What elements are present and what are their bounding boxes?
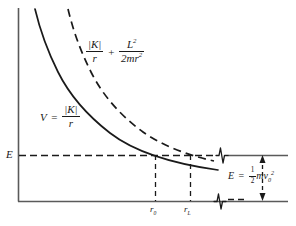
tick-label-r0: r0 [150, 205, 156, 214]
kinetic-energy-label: E = 1 2 mv02 [228, 168, 274, 186]
tick-label-r0-sub: 0 [154, 210, 157, 216]
effective-potential-label: |K| r + L2 2mr2 [86, 40, 144, 66]
kinetic-sub: 0 [268, 176, 271, 183]
tick-label-rL-sub: L [188, 210, 191, 216]
effective-term1-fraction: |K| r [86, 39, 103, 65]
axis-break-mark-top-icon [216, 148, 228, 163]
tick-label-rL: rL [184, 205, 191, 214]
effective-term2-den-exp: 2 [139, 52, 142, 59]
effective-operator: + [106, 46, 116, 58]
effective-term2-den-base: 2mr [121, 52, 139, 64]
potential-fraction: |K| r [62, 104, 79, 130]
kinetic-body: mv [256, 170, 268, 181]
kinetic-exp: 2 [271, 169, 274, 176]
kinetic-energy-arrow-head-down-icon [260, 193, 266, 201]
axis-break-mark-bottom-icon [214, 194, 226, 209]
kinetic-equals: = [237, 170, 247, 181]
energy-level-label: E [6, 149, 13, 160]
kinetic-lhs: E [228, 170, 234, 181]
kinetic-half-num: 1 [249, 167, 257, 177]
kinetic-half-den: 2 [249, 177, 257, 186]
potential-numerator: |K| [62, 104, 79, 118]
effective-term2-fraction: L2 2mr2 [119, 39, 144, 65]
potential-lhs: V [40, 111, 47, 123]
effective-term1-numerator: |K| [86, 39, 103, 53]
potential-equals: = [49, 111, 59, 123]
kinetic-half-fraction: 1 2 [249, 167, 257, 185]
effective-term2-numerator: L2 [119, 39, 144, 53]
potential-curve-label: V = |K| r [40, 105, 80, 131]
potential-denominator: r [62, 117, 79, 130]
effective-term2-num-exp: 2 [133, 37, 136, 44]
potential-energy-diagram: V = |K| r |K| r + L2 2mr2 E r0 rL E = 1 … [0, 0, 296, 226]
effective-term2-denominator: 2mr2 [119, 52, 144, 65]
potential-curve-solid [35, 9, 218, 170]
effective-potential-curve-dashed [68, 9, 214, 161]
effective-term1-denominator: r [86, 52, 103, 65]
